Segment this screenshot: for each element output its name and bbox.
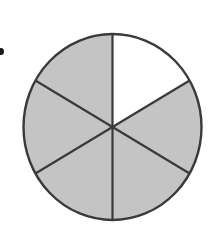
fraction-diagram (0, 0, 217, 227)
fraction-circle (0, 0, 217, 227)
